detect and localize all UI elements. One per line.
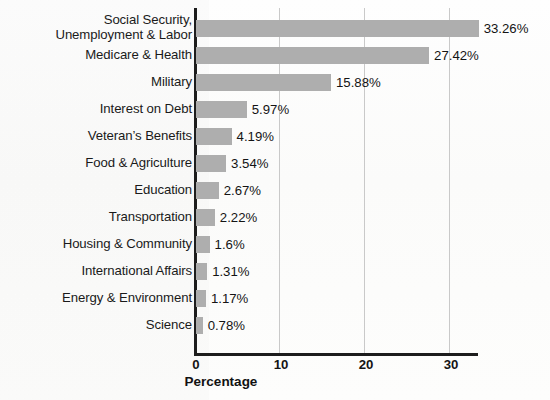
bar-row: Social Security,Unemployment & Labor33.2… bbox=[0, 15, 550, 42]
category-label: Housing & Community bbox=[0, 237, 192, 252]
bar-value-label: 3.54% bbox=[231, 155, 268, 172]
category-label: International Affairs bbox=[0, 264, 192, 279]
bar bbox=[196, 128, 232, 145]
bar-value-label: 0.78% bbox=[208, 317, 245, 334]
bar bbox=[196, 101, 247, 118]
bar-value-label: 33.26% bbox=[484, 20, 529, 37]
bar bbox=[196, 47, 429, 64]
category-label: Medicare & Health bbox=[0, 48, 192, 63]
category-label: Military bbox=[0, 75, 192, 90]
bar bbox=[196, 290, 206, 307]
x-tick-10: 10 bbox=[274, 357, 289, 372]
bar-value-label: 1.31% bbox=[212, 263, 249, 280]
category-label: Interest on Debt bbox=[0, 102, 192, 117]
bar bbox=[196, 20, 479, 37]
bar bbox=[196, 182, 219, 199]
category-label: Food & Agriculture bbox=[0, 156, 192, 171]
bar bbox=[196, 263, 207, 280]
bar-value-label: 4.19% bbox=[237, 128, 274, 145]
horizontal-bar-chart: Social Security,Unemployment & Labor33.2… bbox=[0, 0, 550, 400]
bar bbox=[196, 209, 215, 226]
bar-value-label: 27.42% bbox=[434, 47, 479, 64]
x-axis-title: Percentage bbox=[0, 374, 550, 389]
bar-row: Medicare & Health27.42% bbox=[0, 42, 550, 69]
bar bbox=[196, 236, 210, 253]
category-label: Energy & Environment bbox=[0, 291, 192, 306]
x-tick-20: 20 bbox=[359, 357, 374, 372]
bar-row: Interest on Debt5.97% bbox=[0, 96, 550, 123]
bar-row: Science0.78% bbox=[0, 312, 550, 339]
bar-row: Food & Agriculture3.54% bbox=[0, 150, 550, 177]
bar bbox=[196, 155, 226, 172]
x-axis-title-text: Percentage bbox=[185, 374, 258, 389]
bar-row: Transportation2.22% bbox=[0, 204, 550, 231]
category-label: Veteran’s Benefits bbox=[0, 129, 192, 144]
chart-page: Social Security,Unemployment & Labor33.2… bbox=[0, 0, 550, 400]
x-tick-0: 0 bbox=[192, 357, 199, 372]
bar-row: Housing & Community1.6% bbox=[0, 231, 550, 258]
x-axis-line bbox=[194, 353, 478, 356]
bar bbox=[196, 317, 203, 334]
x-tick-30: 30 bbox=[444, 357, 459, 372]
bar-value-label: 1.17% bbox=[211, 290, 248, 307]
bar-row: Veteran’s Benefits4.19% bbox=[0, 123, 550, 150]
category-label: Science bbox=[0, 318, 192, 333]
bar-value-label: 2.67% bbox=[224, 182, 261, 199]
bar-row: Energy & Environment1.17% bbox=[0, 285, 550, 312]
bar-row: International Affairs1.31% bbox=[0, 258, 550, 285]
bar-value-label: 5.97% bbox=[252, 101, 289, 118]
category-label: Education bbox=[0, 183, 192, 198]
bar-value-label: 2.22% bbox=[220, 209, 257, 226]
bar-value-label: 1.6% bbox=[215, 236, 245, 253]
category-label: Social Security,Unemployment & Labor bbox=[0, 12, 192, 42]
category-label: Transportation bbox=[0, 210, 192, 225]
bar-value-label: 15.88% bbox=[336, 74, 381, 91]
bar-row: Military15.88% bbox=[0, 69, 550, 96]
bar bbox=[196, 74, 331, 91]
bar-row: Education2.67% bbox=[0, 177, 550, 204]
